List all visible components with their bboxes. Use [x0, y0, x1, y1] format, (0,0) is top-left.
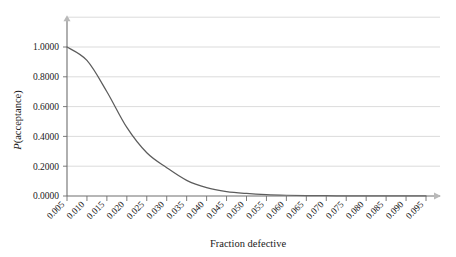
oc-curve-line [67, 47, 426, 196]
operating-characteristic-chart: 0.00000.20000.40000.60000.80001.0000 0.0… [0, 0, 456, 257]
y-tick-label-group: 0.00000.20000.40000.60000.80001.0000 [33, 42, 59, 201]
x-axis-title: Fraction defective [210, 238, 286, 249]
x-tick-label: 0.055 [244, 199, 266, 221]
y-tick-label: 0.8000 [33, 72, 59, 82]
y-tick-label: 0.2000 [33, 162, 59, 172]
x-tick-label: 0.050 [224, 199, 246, 221]
y-tick-group [63, 47, 67, 196]
x-tick-label: 0.020 [105, 199, 127, 221]
x-tick-label: 0.005 [45, 199, 67, 221]
y-axis-title: P(acceptance) [12, 90, 24, 151]
x-tick-label: 0.035 [164, 199, 186, 221]
x-tick-label: 0.070 [304, 199, 326, 221]
x-tick-label: 0.010 [65, 199, 87, 221]
x-tick-label: 0.060 [264, 199, 286, 221]
y-tick-label: 1.0000 [33, 42, 59, 52]
x-axis-arrow-icon [434, 193, 441, 200]
axis-group [64, 15, 442, 199]
x-tick-label: 0.095 [404, 199, 426, 221]
y-axis-arrow-icon [64, 15, 71, 21]
x-tick-label: 0.090 [384, 199, 406, 221]
chart-canvas: 0.00000.20000.40000.60000.80001.0000 0.0… [0, 0, 456, 257]
x-tick-label: 0.075 [324, 199, 346, 221]
x-tick-label: 0.015 [85, 199, 107, 221]
y-tick-label: 0.0000 [33, 191, 59, 201]
x-tick-label: 0.025 [125, 199, 147, 221]
x-tick-group [67, 196, 426, 201]
x-tick-label: 0.065 [284, 199, 306, 221]
x-tick-label: 0.080 [344, 199, 366, 221]
y-tick-label: 0.6000 [33, 102, 59, 112]
y-tick-label: 0.4000 [33, 132, 59, 142]
plot-area [67, 47, 426, 196]
x-tick-label-group: 0.0050.0100.0150.0200.0250.0300.0350.040… [45, 199, 426, 221]
x-tick-label: 0.040 [184, 199, 206, 221]
x-tick-label: 0.030 [144, 199, 166, 221]
x-tick-label: 0.085 [364, 199, 386, 221]
gridline-group [67, 17, 440, 166]
x-tick-label: 0.045 [204, 199, 226, 221]
